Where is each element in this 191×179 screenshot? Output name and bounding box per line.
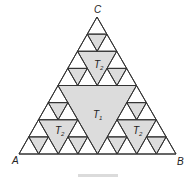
sierpinski-triangle-figure: C A B T1T2T2T2	[0, 0, 191, 179]
vertex-label-b: B	[177, 156, 184, 167]
vertex-label-c: C	[94, 4, 102, 15]
figure-caption-cropped	[78, 174, 118, 177]
triangle-subdivision	[19, 17, 176, 154]
vertex-label-a: A	[11, 155, 19, 166]
